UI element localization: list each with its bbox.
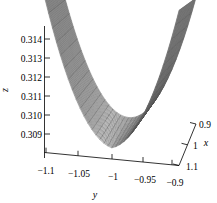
- z-tick-label: 0.314: [21, 35, 43, 45]
- z-tick-label: 0.312: [21, 73, 43, 83]
- y-tick-label: −1.05: [68, 169, 90, 179]
- z-tick-label: 0.311: [21, 92, 42, 102]
- surface-plot-svg: 0.314 0.313 0.312 0.311 0.310 0.309 z −1…: [0, 0, 217, 203]
- z-tick-label: 0.310: [21, 111, 43, 121]
- x-axis-label: x: [203, 137, 209, 148]
- y-tick-label: −1: [108, 172, 118, 182]
- x-tick-label: 1.1: [186, 162, 198, 172]
- z-axis-ticks: [45, 39, 51, 134]
- x-tick-label: 0.9: [199, 120, 211, 130]
- z-axis-label: z: [0, 88, 10, 93]
- y-tick-label: −0.9: [166, 178, 183, 188]
- surface-mesh: [45, 0, 197, 148]
- y-tick-label: −0.95: [134, 175, 156, 185]
- y-axis-ticks: [46, 148, 172, 165]
- z-tick-label: 0.313: [21, 54, 43, 64]
- z-tick-label: 0.309: [21, 130, 43, 140]
- surface-plot-figure: 0.314 0.313 0.312 0.311 0.310 0.309 z −1…: [0, 0, 217, 203]
- x-tick-label: 1: [193, 141, 198, 151]
- y-axis-label: y: [92, 189, 98, 200]
- y-tick-label: −1.1: [37, 166, 54, 176]
